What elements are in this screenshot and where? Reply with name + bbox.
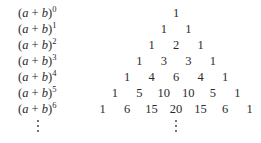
coefficient: 5 <box>136 86 142 100</box>
coefficient: 1 <box>222 70 228 84</box>
coefficient: 1 <box>246 102 252 116</box>
coefficient: 1 <box>197 38 203 52</box>
coefficient: 6 <box>124 102 130 116</box>
vertical-ellipsis-icon <box>175 120 177 135</box>
coefficient: 4 <box>148 70 154 84</box>
coefficient: 1 <box>161 22 167 36</box>
coefficient: 3 <box>161 54 167 68</box>
coefficient: 6 <box>173 70 179 84</box>
coefficient: 4 <box>197 70 203 84</box>
binomial-label: (a + b)3 <box>18 54 56 68</box>
coefficient: 15 <box>194 102 207 116</box>
vertical-ellipsis-icon <box>37 120 39 135</box>
coefficient: 1 <box>148 38 154 52</box>
coefficient: 2 <box>173 38 179 52</box>
coefficient: 3 <box>185 54 191 68</box>
coefficient: 6 <box>222 102 228 116</box>
coefficient: 1 <box>173 6 179 20</box>
binomial-label: (a + b)6 <box>18 102 56 116</box>
binomial-label: (a + b)5 <box>18 86 56 100</box>
binomial-label: (a + b)0 <box>18 6 56 20</box>
binomial-label: (a + b)2 <box>18 38 56 52</box>
coefficient: 5 <box>210 86 216 100</box>
coefficient: 1 <box>210 54 216 68</box>
coefficient: 1 <box>185 22 191 36</box>
binomial-label: (a + b)1 <box>18 22 56 36</box>
coefficient: 10 <box>182 86 195 100</box>
coefficient: 1 <box>124 70 130 84</box>
binomial-label: (a + b)4 <box>18 70 56 84</box>
coefficient: 1 <box>234 86 240 100</box>
coefficient: 15 <box>145 102 158 116</box>
coefficient: 1 <box>99 102 105 116</box>
coefficient: 10 <box>158 86 171 100</box>
coefficient: 1 <box>136 54 142 68</box>
coefficient: 20 <box>170 102 183 116</box>
coefficient: 1 <box>112 86 118 100</box>
